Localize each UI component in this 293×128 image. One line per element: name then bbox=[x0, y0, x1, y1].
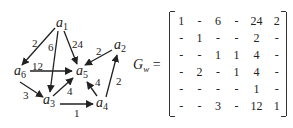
matrix-cell: 1 bbox=[190, 30, 208, 47]
matrix-cell: 2 bbox=[190, 64, 208, 81]
matrix-cell: - bbox=[227, 81, 245, 98]
matrix-cell: 1 bbox=[246, 81, 268, 98]
matrix-cell: 1 bbox=[227, 64, 245, 81]
node-a3: a3 bbox=[43, 92, 55, 109]
matrix-cell: - bbox=[268, 64, 286, 81]
matrix-cell: - bbox=[209, 30, 227, 47]
matrix-cell: 3 bbox=[209, 98, 227, 115]
matrix-cell: - bbox=[172, 47, 190, 64]
matrix-cell: - bbox=[172, 81, 190, 98]
edge-weight-a4-a2: 2 bbox=[116, 75, 122, 87]
matrix-cell: - bbox=[190, 47, 208, 64]
edge-weight-a1-a3: 6 bbox=[48, 41, 54, 53]
matrix-cell: - bbox=[172, 98, 190, 115]
matrix-row: - 1 - - 2 - bbox=[172, 30, 286, 47]
matrix-table: 1 - 6 - 24 2 - 1 - - 2 - - - 1 1 4 - bbox=[172, 13, 286, 115]
matrix-cell: 1 bbox=[268, 98, 286, 115]
matrix-cell: 1 bbox=[209, 47, 227, 64]
matrix-cell: 2 bbox=[268, 13, 286, 30]
matrix-cell: - bbox=[172, 30, 190, 47]
edge-weight-a1-a5: 24 bbox=[72, 38, 84, 50]
matrix-name: G bbox=[133, 57, 143, 72]
matrix-cell: 2 bbox=[246, 30, 268, 47]
matrix-cell: - bbox=[227, 98, 245, 115]
matrix-cell: - bbox=[268, 47, 286, 64]
matrix-cell: - bbox=[190, 98, 208, 115]
node-a1: a1 bbox=[56, 15, 68, 32]
matrix-row: 1 - 6 - 24 2 bbox=[172, 13, 286, 30]
matrix-cell: 6 bbox=[209, 13, 227, 30]
matrix-cell: - bbox=[268, 30, 286, 47]
equals-sign: = bbox=[153, 57, 161, 72]
matrix-cell: 4 bbox=[246, 47, 268, 64]
matrix-row: - - 1 1 4 - bbox=[172, 47, 286, 64]
weight-matrix-section: Gw = 1 - 6 - 24 2 - 1 - - 2 - - - bbox=[133, 12, 293, 120]
node-a4: a4 bbox=[96, 95, 108, 112]
matrix-cell: - bbox=[209, 81, 227, 98]
matrix-label: Gw = bbox=[133, 57, 161, 73]
matrix-cell: - bbox=[209, 64, 227, 81]
matrix-row: - 2 - 1 4 - bbox=[172, 64, 286, 81]
matrix-cell: 24 bbox=[246, 13, 268, 30]
matrix-cell: - bbox=[227, 30, 245, 47]
weighted-digraph: 2 6 24 2 12 3 4 1 4 2 a1 a2 a5 a6 a3 a4 bbox=[0, 0, 135, 128]
matrix-cell: 4 bbox=[246, 64, 268, 81]
matrix-cell: - bbox=[227, 13, 245, 30]
matrix-row: - - 3 - 12 1 bbox=[172, 98, 286, 115]
matrix-cell: - bbox=[190, 13, 208, 30]
matrix-cell: 1 bbox=[227, 47, 245, 64]
matrix-subscript: w bbox=[143, 64, 149, 74]
edge-weight-a3-a5: 4 bbox=[67, 85, 73, 97]
edge-weight-a1-a6: 2 bbox=[32, 37, 38, 49]
matrix-cell: - bbox=[190, 81, 208, 98]
matrix-row: - - - - 1 - bbox=[172, 81, 286, 98]
matrix-cell: - bbox=[172, 64, 190, 81]
weight-matrix: 1 - 6 - 24 2 - 1 - - 2 - - - 1 1 4 - bbox=[169, 12, 287, 116]
edge-weight-a3-a4: 1 bbox=[74, 107, 80, 119]
node-a2: a2 bbox=[114, 37, 126, 54]
edge-weight-a2-a5: 2 bbox=[96, 45, 102, 57]
edge-weight-a4-a5: 4 bbox=[95, 76, 101, 88]
matrix-cell: - bbox=[268, 81, 286, 98]
matrix-cell: 1 bbox=[172, 13, 190, 30]
edge-weight-a6-a3: 3 bbox=[23, 89, 29, 101]
node-a6: a6 bbox=[14, 63, 26, 80]
node-a5: a5 bbox=[76, 63, 88, 80]
edge-weight-a6-a5: 12 bbox=[32, 60, 43, 72]
matrix-cell: 12 bbox=[246, 98, 268, 115]
